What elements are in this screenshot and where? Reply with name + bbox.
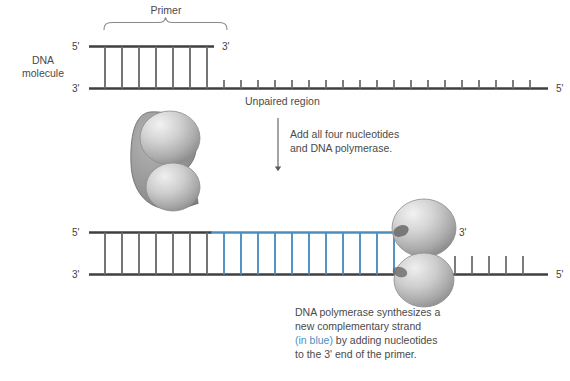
dna-molecule-label-line1: DNA: [10, 54, 76, 68]
dna-polymerase-enzyme-free: [131, 111, 200, 211]
bottom-panel-primer-rungs: [105, 233, 207, 275]
remaining-unpaired-ticks: [455, 256, 523, 275]
step-instruction-line1: Add all four nucleotides: [290, 128, 399, 142]
primer-bracket: [104, 18, 227, 31]
top-strand-five-prime-label: 5': [72, 40, 79, 53]
caption-line4: to the 3' end of the primer.: [295, 348, 417, 362]
dna-polymerase-enzyme-bound: [391, 199, 456, 307]
step-instruction-line2: and DNA polymerase.: [290, 142, 392, 156]
template-strand-five-prime-label: 5': [556, 82, 563, 95]
diagram-canvas: [0, 0, 570, 381]
caption-in-blue-text: (in blue): [295, 334, 333, 346]
top-strand-three-prime-label: 3': [222, 40, 229, 53]
bottom-template-three-prime-label: 3': [72, 268, 79, 281]
caption-line1: DNA polymerase synthesizes a: [295, 306, 440, 320]
caption-line3: (in blue) by adding nucleotides: [295, 334, 437, 348]
unpaired-region-label: Unpaired region: [245, 95, 320, 109]
dna-molecule-label-line2: molecule: [10, 67, 76, 81]
caption-line3-rest: by adding nucleotides: [333, 334, 438, 346]
bottom-top-strand-five-prime-label: 5': [72, 226, 79, 239]
caption-line2: new complementary strand: [295, 320, 421, 334]
dna-polymerase-diagram: Primer DNA molecule 5' 3' 3' 5' Unpaired…: [0, 0, 570, 381]
template-strand-three-prime-label: 3': [72, 82, 79, 95]
new-strand-rungs: [224, 233, 394, 275]
primer-label: Primer: [135, 4, 197, 18]
primer-base-pair-rungs: [105, 47, 207, 89]
bottom-template-five-prime-label: 5': [556, 268, 563, 281]
bottom-new-strand-three-prime-label: 3': [459, 226, 466, 239]
